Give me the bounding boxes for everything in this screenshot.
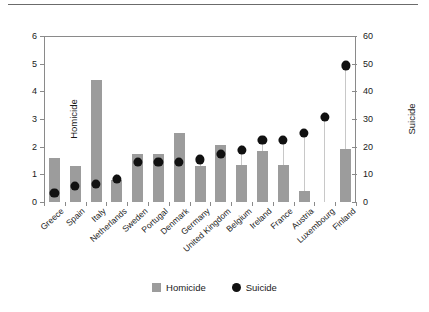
bar-homicide-france xyxy=(278,165,289,202)
dot-suicide-germany xyxy=(195,155,204,164)
stem-line xyxy=(345,61,346,150)
dot-suicide-luxembourg xyxy=(320,112,329,121)
legend-item-suicide: Suicide xyxy=(232,282,277,293)
dot-suicide-finland xyxy=(341,61,350,70)
legend-label-homicide: Homicide xyxy=(166,282,206,293)
y-axis-right-tick-label: 20 xyxy=(363,142,373,151)
x-axis-label-greece: Greece xyxy=(39,206,66,232)
y-axis-left-tick xyxy=(40,36,45,37)
circle-marker-icon xyxy=(232,283,241,292)
bar-homicide-finland xyxy=(340,149,351,202)
top-divider-rule xyxy=(8,4,418,5)
y-axis-left-tick xyxy=(40,174,45,175)
y-axis-left-tick-label: 6 xyxy=(32,32,37,41)
y-axis-right-tick-label: 0 xyxy=(363,198,368,207)
y-axis-left-tick xyxy=(40,64,45,65)
y-axis-left-tick-label: 5 xyxy=(32,59,37,68)
y-axis-left-tick-label: 0 xyxy=(32,198,37,207)
bar-homicide-belgium xyxy=(236,165,247,202)
y-axis-right-tick xyxy=(352,36,357,37)
y-axis-right-tick-label: 10 xyxy=(363,170,373,179)
y-axis-right-tick xyxy=(352,174,357,175)
x-axis-line xyxy=(44,36,356,37)
y-axis-left-tick xyxy=(40,119,45,120)
y-axis-left-tick-label: 1 xyxy=(32,170,37,179)
square-swatch-icon xyxy=(152,283,161,292)
y-axis-right-tick-label: 50 xyxy=(363,59,373,68)
y-axis-right-tick xyxy=(352,91,357,92)
plot-area: 0123456 0102030405060 Homicide xyxy=(44,36,356,202)
y-axis-right-tick-label: 30 xyxy=(363,115,373,124)
y-axis-right-tick-label: 40 xyxy=(363,87,373,96)
x-axis-label-france: France xyxy=(269,206,295,231)
x-axis-tick xyxy=(356,202,357,206)
y-axis-right-tick xyxy=(352,64,357,65)
dot-suicide-ireland xyxy=(258,136,267,145)
bar-homicide-germany xyxy=(195,166,206,202)
stem-line xyxy=(304,129,305,191)
y-axis-left-tick-label: 2 xyxy=(32,142,37,151)
y-axis-left-tick xyxy=(40,91,45,92)
bar-homicide-denmark xyxy=(174,133,185,202)
figure-canvas: 0123456 0102030405060 Homicide Suicide G… xyxy=(0,0,429,312)
y-axis-left-tick xyxy=(40,147,45,148)
y-axis-right-tick-label: 60 xyxy=(363,32,373,41)
legend-label-suicide: Suicide xyxy=(246,282,277,293)
bar-homicide-austria xyxy=(299,191,310,202)
x-axis-label-ireland: Ireland xyxy=(248,206,274,231)
y-axis-left-tick-label: 4 xyxy=(32,87,37,96)
y-axis-right-tick xyxy=(352,147,357,148)
y-axis-left-title: Homicide xyxy=(68,99,79,139)
y-axis-left-tick-label: 3 xyxy=(32,115,37,124)
legend-item-homicide: Homicide xyxy=(152,282,206,293)
x-axis-label-spain: Spain xyxy=(64,206,87,228)
dot-suicide-belgium xyxy=(237,145,246,154)
stem-line xyxy=(324,112,325,202)
y-axis-right-tick xyxy=(352,119,357,120)
x-axis-category-labels: GreeceSpainItalyNetherlandsSwedenPortuga… xyxy=(44,206,356,276)
dot-suicide-austria xyxy=(299,129,308,138)
dot-suicide-france xyxy=(279,136,288,145)
bar-homicide-ireland xyxy=(257,151,268,202)
chart-legend: Homicide Suicide xyxy=(0,282,429,293)
y-axis-right-title: Suicide xyxy=(406,103,417,134)
